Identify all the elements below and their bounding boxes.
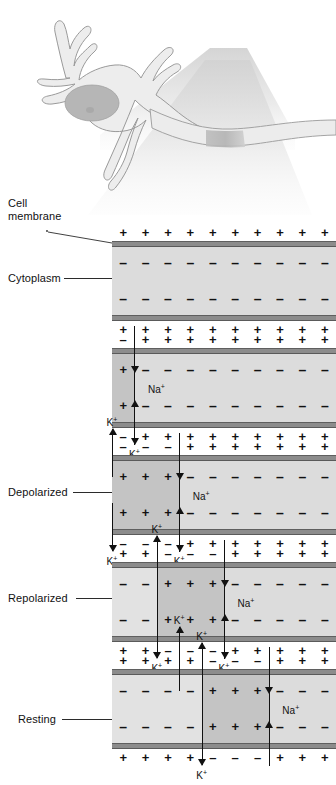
intracellular-charge-row: ––––+++––– (112, 685, 336, 697)
charge-negative: – (164, 364, 172, 376)
charge-negative: – (209, 293, 217, 305)
intracellular-charge-row: +++––––––– (112, 507, 336, 519)
charge-positive: + (299, 548, 307, 560)
charge-positive: + (299, 752, 307, 764)
membrane-bilayer-inner (112, 743, 336, 749)
extracellular-charge-row: –+++++++++ (112, 334, 336, 346)
arrowhead-down (176, 473, 184, 480)
charge-negative: – (298, 578, 306, 590)
charge-positive: + (254, 548, 262, 560)
charge-positive: + (187, 578, 195, 590)
membrane-bilayer-outer (112, 669, 336, 675)
charge-positive: + (142, 655, 150, 667)
charge-negative: – (231, 400, 239, 412)
charge-negative: – (142, 293, 150, 305)
charge-positive: + (164, 655, 172, 667)
charge-negative: – (119, 721, 127, 733)
charge-negative: – (164, 400, 172, 412)
potassium-ion-label: K+ (107, 415, 118, 428)
extracellular-charge-row: ++++–––+++ (112, 655, 336, 667)
extracellular-charge-row: ++++++++++ (112, 227, 336, 239)
charge-positive: + (187, 655, 195, 667)
intracellular-charge-row: +++––––––– (112, 471, 336, 483)
arrowhead-down (265, 687, 273, 694)
charge-negative: – (142, 685, 150, 697)
charge-positive: + (187, 614, 195, 626)
charge-positive: + (231, 227, 239, 239)
charge-negative: – (298, 400, 306, 412)
charge-negative: – (119, 293, 127, 305)
charge-positive: + (321, 655, 329, 667)
charge-positive: + (164, 578, 172, 590)
potassium-ion-label: K+ (151, 522, 162, 535)
charge-negative: – (119, 257, 127, 269)
charge-positive: + (209, 227, 217, 239)
charge-negative: – (209, 548, 216, 560)
charge-negative: – (298, 364, 306, 376)
charge-positive: + (254, 227, 262, 239)
charge-negative: – (276, 507, 284, 519)
membrane-bilayer-outer (112, 241, 336, 247)
charge-positive: + (231, 548, 239, 560)
charge-positive: + (142, 227, 150, 239)
charge-negative: – (209, 655, 216, 667)
charge-negative: – (254, 257, 262, 269)
charge-negative: – (142, 257, 150, 269)
charge-negative: – (164, 441, 171, 453)
charge-positive: + (254, 334, 262, 346)
charge-positive: + (254, 685, 262, 697)
charge-negative: – (119, 578, 127, 590)
potassium-ion-label: K+ (174, 613, 185, 626)
charge-negative: – (298, 471, 306, 483)
charge-negative: – (142, 721, 150, 733)
arrowhead-down (221, 580, 229, 587)
charge-positive: + (119, 548, 127, 560)
cytoplasm-region (112, 348, 336, 428)
membrane-bilayer-inner (112, 315, 336, 321)
charge-positive: + (119, 507, 127, 519)
charge-positive: + (142, 334, 150, 346)
charge-negative: – (209, 471, 217, 483)
charge-negative: – (186, 400, 194, 412)
charge-positive: + (231, 334, 239, 346)
charge-negative: – (298, 685, 306, 697)
arrowhead-up (109, 428, 117, 435)
charge-negative: – (231, 507, 239, 519)
charge-negative: – (186, 257, 194, 269)
charge-positive: + (321, 548, 329, 560)
charge-negative: – (321, 578, 329, 590)
charge-negative: – (321, 685, 329, 697)
charge-negative: – (164, 293, 172, 305)
sodium-influx-arrow-lower (269, 722, 270, 766)
charge-positive: + (254, 441, 262, 453)
charge-negative: – (276, 471, 284, 483)
intracellular-charge-row: ––––+++––– (112, 721, 336, 733)
potassium-efflux-arrow-upper (157, 536, 158, 584)
charge-negative: – (164, 685, 172, 697)
charge-positive: + (119, 471, 127, 483)
charge-positive: + (321, 227, 329, 239)
membrane-bilayer-inner (112, 422, 336, 428)
membrane-bilayer-outer (112, 348, 336, 354)
axon-highlight-segment (206, 130, 245, 147)
charge-negative: – (321, 293, 329, 305)
extracellular-charge-row: ++++–––+++ (112, 752, 336, 764)
charge-negative: – (119, 614, 127, 626)
panel-stimulus: +–––––––––+––––––––– (112, 348, 336, 428)
charge-negative: – (187, 548, 194, 560)
charge-positive: + (142, 752, 150, 764)
charge-negative: – (321, 471, 329, 483)
membrane-bilayer-outer (112, 455, 336, 461)
charge-positive: + (209, 334, 217, 346)
charge-negative: – (209, 400, 217, 412)
charge-positive: + (321, 441, 329, 453)
charge-positive: + (209, 614, 217, 626)
charge-negative: – (276, 578, 284, 590)
panel-resting-initial: –––––––––––––––––––– (112, 241, 336, 321)
recovered-zone (112, 669, 202, 749)
charge-positive: + (276, 655, 284, 667)
charge-negative: – (142, 441, 149, 453)
intracellular-charge-row: +––––––––– (112, 364, 336, 376)
charge-negative: – (254, 364, 262, 376)
potassium-efflux-arrow-lower (202, 717, 203, 765)
